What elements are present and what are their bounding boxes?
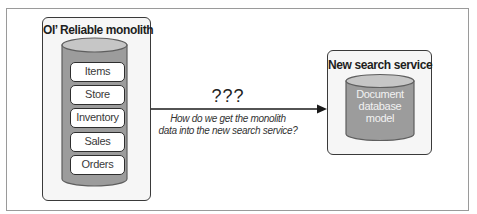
db-label-line2: database <box>346 100 414 112</box>
db-label-line3: model <box>346 112 414 124</box>
document-database-label: Document database model <box>346 88 414 124</box>
db-label-line1: Document <box>346 88 414 100</box>
